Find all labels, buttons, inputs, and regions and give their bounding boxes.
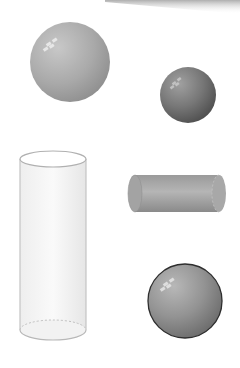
shapes-diagram [0, 0, 240, 368]
outlined-sphere [148, 264, 222, 338]
small-dark-sphere [160, 67, 216, 123]
page-corner-shadow [105, 0, 240, 14]
grey-horizontal-cylinder [128, 175, 226, 212]
large-light-sphere [30, 22, 110, 102]
transparent-cylinder [20, 151, 86, 340]
